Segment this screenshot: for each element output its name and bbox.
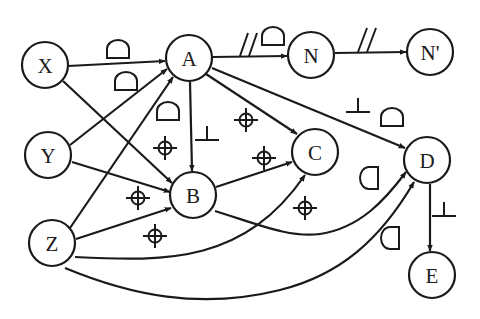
crosshair-icon-z-c <box>293 196 317 220</box>
d-shape-icon-a-d <box>381 108 403 126</box>
d-shape-icon-b-d <box>360 167 378 189</box>
d-shape-icon-x-a <box>107 40 129 58</box>
causal-diagram: X A N N' Y B C D Z E <box>0 0 480 319</box>
node-b: B <box>170 172 216 218</box>
node-z: Z <box>29 220 75 266</box>
d-shape-icon-z-d <box>381 227 399 249</box>
edge-z-b <box>76 208 171 239</box>
node-label-d: D <box>419 149 434 173</box>
node-label-n-prime: N' <box>421 41 440 65</box>
perpendicular-icon-d-e <box>432 202 456 216</box>
edge-n-np <box>335 52 406 53</box>
node-label-z: Z <box>46 232 59 256</box>
node-label-x: X <box>37 54 52 78</box>
crosshair-icon-a-c <box>234 108 258 132</box>
node-e: E <box>409 252 455 298</box>
node-label-e: E <box>426 264 439 288</box>
node-label-c: C <box>308 141 322 165</box>
node-y: Y <box>25 132 71 178</box>
double-slash-icon-a-n <box>240 33 257 56</box>
node-d: D <box>404 137 450 183</box>
crosshair-icon-z-b <box>143 224 167 248</box>
node-label-y: Y <box>40 144 55 168</box>
node-c: C <box>292 129 338 175</box>
node-label-b: B <box>186 184 200 208</box>
edge-x-b <box>63 81 172 183</box>
crosshair-icon-b-c <box>252 146 276 170</box>
node-n: N <box>288 32 334 78</box>
edge-z-d <box>65 182 414 299</box>
perpendicular-icon-a-d <box>346 98 370 112</box>
node-label-a: A <box>181 47 197 71</box>
node-x: X <box>22 42 68 88</box>
edge-z-a <box>70 77 173 228</box>
node-a: A <box>166 35 212 81</box>
d-shape-icon-a-n <box>262 27 284 45</box>
crosshair-icon-x-b <box>153 136 177 160</box>
edge-x-a <box>68 61 165 66</box>
d-shape-icon-z-a <box>157 102 179 120</box>
crosshair-icon-y-b <box>126 186 150 210</box>
perpendicular-icon-a-b <box>195 126 219 140</box>
d-shape-icon-y-a <box>115 72 137 90</box>
node-label-n: N <box>303 44 318 68</box>
edge-b-c <box>216 162 292 187</box>
edge-a-b <box>190 82 192 171</box>
node-n-prime: N' <box>407 29 453 75</box>
double-slash-icon-n-np <box>358 28 376 52</box>
